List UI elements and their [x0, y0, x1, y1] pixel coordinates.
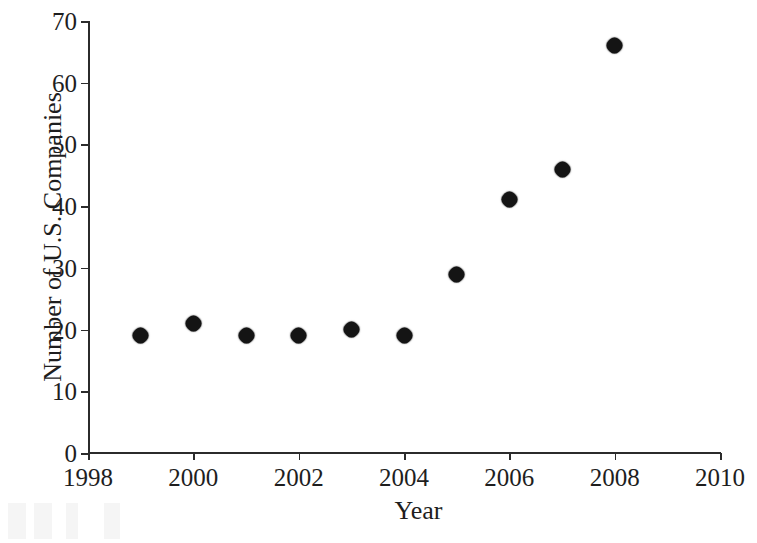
data-point: [604, 35, 625, 56]
x-tick: [615, 453, 617, 460]
x-tick-label: 2000: [168, 465, 218, 490]
y-tick: [81, 268, 88, 270]
data-point: [341, 319, 362, 340]
x-tick-label: 2002: [274, 465, 324, 490]
x-tick-label: 2008: [590, 465, 640, 490]
y-tick: [81, 144, 88, 146]
y-axis-title: Number of U.S. Companies: [38, 21, 68, 453]
data-point: [446, 263, 467, 284]
x-tick: [299, 453, 301, 460]
x-tick-label: 2006: [484, 465, 534, 490]
plot-area: 010203040506070 199820002002200420062008…: [88, 21, 720, 453]
y-tick: [81, 453, 88, 455]
y-tick: [81, 330, 88, 332]
data-point: [499, 189, 520, 210]
y-tick: [81, 391, 88, 393]
data-point: [235, 325, 256, 346]
data-point: [130, 325, 151, 346]
y-tick: [81, 206, 88, 208]
y-tick: [81, 21, 88, 23]
x-tick-label: 2010: [695, 465, 745, 490]
data-point: [393, 325, 414, 346]
scatter-chart: 010203040506070 199820002002200420062008…: [0, 0, 757, 543]
scan-artifact: [8, 503, 158, 539]
x-tick: [193, 453, 195, 460]
x-tick: [720, 453, 722, 460]
data-point: [551, 159, 572, 180]
x-tick-label: 1998: [63, 465, 113, 490]
data-point: [183, 313, 204, 334]
data-point: [288, 325, 309, 346]
x-tick-label: 2004: [379, 465, 429, 490]
y-tick: [81, 83, 88, 85]
x-tick: [509, 453, 511, 460]
x-tick: [404, 453, 406, 460]
x-tick: [88, 453, 90, 460]
